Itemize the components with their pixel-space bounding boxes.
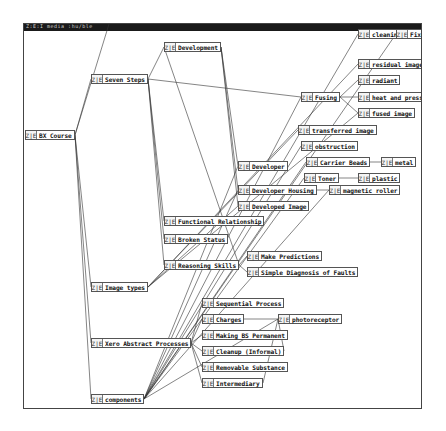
node-removable-substance[interactable]: Z|ERemovable Substance — [202, 362, 288, 372]
node-making-bs-permanent[interactable]: Z|EMaking BS Permanent — [202, 330, 288, 340]
node-obstruction[interactable]: Z|Eobstruction — [301, 141, 358, 151]
node-fused-image[interactable]: Z|Efused image — [358, 108, 415, 118]
node-label: plastic — [372, 175, 397, 182]
node-label: Functional Relationship — [178, 218, 261, 225]
node-type-icon[interactable]: Z|E — [165, 217, 176, 225]
node-plastic[interactable]: Z|Eplastic — [358, 173, 400, 183]
node-type-icon[interactable]: Z|E — [239, 202, 250, 210]
node-label: Fixer — [410, 31, 422, 38]
node-heat-and-pressure[interactable]: Z|Eheat and pressure — [358, 92, 422, 102]
node-type-icon[interactable]: Z|E — [165, 43, 176, 51]
node-label: Simple Diagnosis of Faults — [261, 269, 355, 276]
node-type-icon[interactable]: Z|E — [359, 30, 370, 38]
node-type-icon[interactable]: Z|E — [26, 131, 37, 139]
node-label: Seven Steps — [105, 76, 145, 83]
node-type-icon[interactable]: Z|E — [302, 142, 313, 150]
node-type-icon[interactable]: Z|E — [203, 331, 214, 339]
node-type-icon[interactable]: Z|E — [330, 186, 341, 194]
node-functional-relationship[interactable]: Z|EFunctional Relationship — [164, 216, 264, 226]
node-type-icon[interactable]: Z|E — [299, 126, 310, 134]
node-image-types[interactable]: Z|EImage types — [91, 282, 148, 292]
node-developed-image[interactable]: Z|EDeveloped Image — [238, 201, 309, 211]
edge-seven-steps-reasoning-skills — [148, 79, 164, 265]
node-label: Cleanup (Informal) — [216, 348, 281, 355]
node-label: Developer — [252, 163, 285, 170]
node-carrier-beads[interactable]: Z|ECarrier Beads — [306, 157, 370, 167]
node-radiant[interactable]: Z|Eradiant — [358, 75, 400, 85]
node-type-icon[interactable]: Z|E — [359, 109, 370, 117]
node-label: metal — [395, 159, 413, 166]
node-development[interactable]: Z|EDevelopment — [164, 42, 221, 52]
node-label: fused image — [372, 110, 412, 117]
edge-development-developed-image — [221, 47, 238, 206]
node-label: Development — [178, 44, 218, 51]
node-type-icon[interactable]: Z|E — [359, 76, 370, 84]
node-reasoning-skills[interactable]: Z|EReasoning Skills — [164, 260, 239, 270]
node-type-icon[interactable]: Z|E — [92, 395, 103, 403]
edge-reasoning-skills-development — [164, 47, 239, 265]
node-fusing[interactable]: Z|EFusing — [301, 92, 340, 102]
node-type-icon[interactable]: Z|E — [305, 174, 316, 182]
node-label: obstruction — [315, 143, 355, 150]
node-type-icon[interactable]: Z|E — [203, 315, 214, 323]
node-type-icon[interactable]: Z|E — [359, 60, 370, 68]
node-metal[interactable]: Z|Emetal — [381, 157, 416, 167]
edge-development-developer — [221, 47, 238, 166]
edge-fusing-fused-image — [340, 97, 358, 113]
node-xero-abstract-processes[interactable]: Z|EXero Abstract Processes — [91, 338, 191, 348]
node-type-icon[interactable]: Z|E — [359, 93, 370, 101]
node-developer[interactable]: Z|EDeveloper — [238, 161, 288, 171]
node-label: Developer Housing — [252, 187, 314, 194]
concept-map-window: Z:E:I media :hu/ble Z|EBX CourseZ|ESeven… — [23, 23, 422, 409]
node-broken-status[interactable]: Z|EBroken Status — [164, 234, 228, 244]
node-toner[interactable]: Z|EToner — [304, 173, 339, 183]
node-intermediary[interactable]: Z|EIntermediary — [202, 378, 263, 388]
node-charges[interactable]: Z|ECharges — [202, 314, 244, 324]
node-type-icon[interactable]: Z|E — [239, 162, 250, 170]
node-type-icon[interactable]: Z|E — [397, 30, 408, 38]
node-make-predictions[interactable]: Z|EMake Predictions — [247, 251, 322, 261]
node-type-icon[interactable]: Z|E — [359, 174, 370, 182]
node-type-icon[interactable]: Z|E — [92, 283, 103, 291]
node-residual-image[interactable]: Z|Eresidual image — [358, 59, 422, 69]
node-seven-steps[interactable]: Z|ESeven Steps — [91, 74, 148, 84]
node-label: Intermediary — [216, 380, 260, 387]
node-bx-course[interactable]: Z|EBX Course — [25, 130, 75, 140]
node-type-icon[interactable]: Z|E — [279, 315, 290, 323]
node-label: photoreceptor — [292, 316, 339, 323]
node-type-icon[interactable]: Z|E — [382, 158, 393, 166]
node-type-icon[interactable]: Z|E — [203, 379, 214, 387]
node-label: Removable Substance — [216, 364, 285, 371]
node-fixer[interactable]: Z|EFixer — [396, 29, 422, 39]
edge-reasoning-skills-make-predictions — [239, 256, 247, 265]
node-type-icon[interactable]: Z|E — [203, 299, 214, 307]
node-transferred-image[interactable]: Z|Etransferred image — [298, 125, 377, 135]
edge-seven-steps-broken-status — [148, 79, 164, 239]
node-label: Reasoning Skills — [178, 262, 236, 269]
node-type-icon[interactable]: Z|E — [239, 186, 250, 194]
node-sequential-process[interactable]: Z|ESequential Process — [202, 298, 284, 308]
node-components[interactable]: Z|Ecomponents — [91, 394, 144, 404]
node-developer-housing[interactable]: Z|EDeveloper Housing — [238, 185, 317, 195]
node-label: Fusing — [315, 94, 337, 101]
node-type-icon[interactable]: Z|E — [165, 235, 176, 243]
node-label: BX Course — [39, 132, 72, 139]
node-type-icon[interactable]: Z|E — [307, 158, 318, 166]
node-type-icon[interactable]: Z|E — [165, 261, 176, 269]
node-type-icon[interactable]: Z|E — [92, 339, 103, 347]
node-type-icon[interactable]: Z|E — [248, 252, 259, 260]
node-label: magnetic roller — [343, 187, 397, 194]
node-simple-diagnosis[interactable]: Z|ESimple Diagnosis of Faults — [247, 267, 358, 277]
node-cleanup-informal[interactable]: Z|ECleanup (Informal) — [202, 346, 284, 356]
node-type-icon[interactable]: Z|E — [248, 268, 259, 276]
node-photoreceptor[interactable]: Z|Ephotoreceptor — [278, 314, 342, 324]
node-label: Developed Image — [252, 203, 306, 210]
node-label: residual image — [372, 61, 422, 68]
node-magnetic-roller[interactable]: Z|Emagnetic roller — [329, 185, 400, 195]
node-type-icon[interactable]: Z|E — [302, 93, 313, 101]
node-type-icon[interactable]: Z|E — [203, 363, 214, 371]
node-label: Toner — [318, 175, 336, 182]
node-type-icon[interactable]: Z|E — [92, 75, 103, 83]
node-type-icon[interactable]: Z|E — [203, 347, 214, 355]
node-label: Broken Status — [178, 236, 225, 243]
